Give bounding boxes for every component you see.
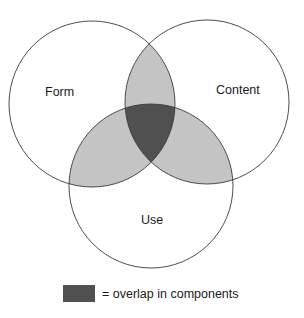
venn-diagram: Form Content Use = overlap in components	[0, 0, 304, 318]
label-content: Content	[216, 83, 260, 97]
legend-swatch	[63, 285, 95, 302]
legend-text: = overlap in components	[102, 287, 239, 301]
label-form: Form	[45, 85, 74, 99]
label-use: Use	[141, 213, 163, 227]
